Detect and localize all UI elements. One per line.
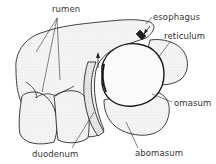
rumen-right-lobe: [54, 91, 89, 143]
label-reticulum: reticulum: [164, 32, 205, 41]
label-duodenum: duodenum: [32, 150, 78, 159]
stomach-diagram: rumen esophagus reticulum omasum abomasu…: [0, 0, 216, 164]
label-abomasum: abomasum: [135, 149, 183, 158]
omasum-shape: [102, 44, 164, 107]
label-esophagus: esophagus: [153, 13, 200, 22]
stomach-illustration: [0, 0, 216, 164]
label-omasum: omasum: [174, 99, 211, 108]
label-rumen: rumen: [52, 5, 80, 14]
